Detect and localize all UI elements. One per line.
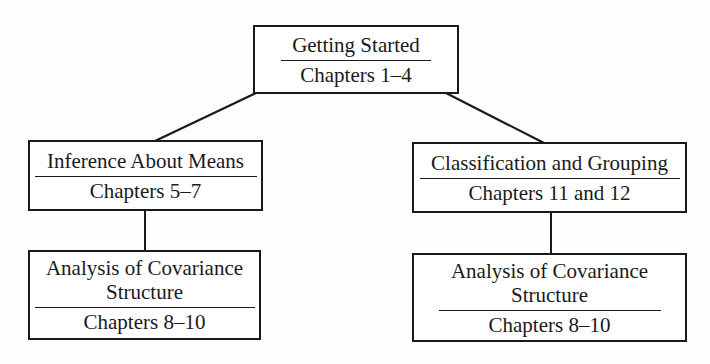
node-analysis-of-covariance-left: Analysis of Covariance Structure Chapter… [28, 250, 261, 340]
divider [420, 178, 680, 179]
node-chapters: Chapters 8–10 [489, 313, 611, 337]
chapter-flow-diagram: Getting Started Chapters 1–4 Inference A… [0, 0, 710, 364]
edge-getting-started-to-classification [446, 93, 544, 143]
node-classification-and-grouping: Classification and Grouping Chapters 11 … [412, 142, 687, 213]
node-chapters: Chapters 5–7 [90, 179, 201, 203]
node-chapters: Chapters 8–10 [84, 310, 206, 334]
divider [35, 176, 257, 177]
node-title: Getting Started [288, 33, 424, 57]
node-title-line1: Analysis of Covariance [42, 256, 247, 280]
node-title: Inference About Means [43, 149, 248, 173]
node-title: Classification and Grouping [427, 151, 672, 175]
divider [281, 60, 431, 61]
node-title-line1: Analysis of Covariance [447, 259, 652, 283]
node-chapters: Chapters 11 and 12 [469, 181, 631, 205]
node-inference-about-means: Inference About Means Chapters 5–7 [28, 140, 263, 211]
node-analysis-of-covariance-right: Analysis of Covariance Structure Chapter… [412, 253, 687, 342]
divider [35, 307, 255, 308]
node-chapters: Chapters 1–4 [300, 63, 411, 87]
edge-getting-started-to-inference [155, 93, 256, 141]
divider [439, 310, 661, 311]
node-title-line2: Structure [507, 283, 592, 307]
node-title-line2: Structure [102, 280, 187, 304]
node-getting-started: Getting Started Chapters 1–4 [253, 25, 459, 94]
